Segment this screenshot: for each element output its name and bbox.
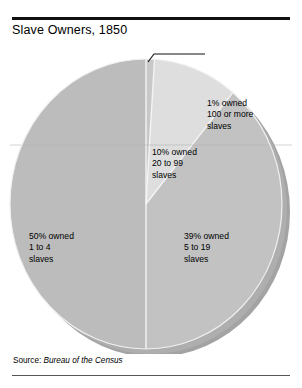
source-prefix: Source: xyxy=(13,356,44,365)
title-rule-top xyxy=(12,17,290,20)
chart-title: Slave Owners, 1850 xyxy=(12,23,127,37)
slice-label-line2: 5 to 19 xyxy=(184,242,229,253)
pie-slice-1-to-4 xyxy=(10,59,146,349)
slice-label-100-or-more: 1% owned 100 or more slaves xyxy=(207,98,253,132)
slice-label-line3: slaves xyxy=(207,121,253,132)
pie-chart-svg xyxy=(0,48,302,354)
slice-label-line3: slaves xyxy=(152,170,197,181)
slice-label-line2: 1 to 4 xyxy=(29,242,74,253)
slice-label-line2: 100 or more xyxy=(207,109,253,120)
source-name: Bureau of the Census xyxy=(44,356,123,365)
slice-label-1-to-4: 50% owned 1 to 4 slaves xyxy=(29,231,74,265)
source-note: Source: Bureau of the Census xyxy=(13,356,123,365)
slice-label-5-to-19: 39% owned 5 to 19 slaves xyxy=(184,231,229,265)
slice-label-line3: slaves xyxy=(29,254,74,265)
slice-label-line3: slaves xyxy=(184,254,229,265)
slice-label-line1: 10% owned xyxy=(152,147,197,158)
slice-label-line2: 20 to 99 xyxy=(152,158,197,169)
pie-chart: 1% owned 100 or more slaves 10% owned 20… xyxy=(0,48,302,354)
slice-label-line1: 50% owned xyxy=(29,231,74,242)
slice-label-line1: 1% owned xyxy=(207,98,253,109)
footer-rule-bottom xyxy=(12,375,290,376)
slice-label-20-to-99: 10% owned 20 to 99 slaves xyxy=(152,147,197,181)
figure-container: Slave Owners, 1850 xyxy=(0,0,302,388)
slice-label-line1: 39% owned xyxy=(184,231,229,242)
